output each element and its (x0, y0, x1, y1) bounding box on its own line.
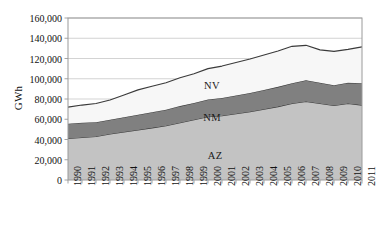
series-label-nv: NV (204, 79, 220, 90)
area-chart: GWh 020,00040,00060,00080,000100,000120,… (0, 0, 380, 229)
x-tick-label: 1997 (170, 166, 181, 186)
x-tick-label: 2007 (310, 166, 321, 186)
x-tick-label: 1996 (156, 166, 167, 186)
x-tick-label: 2002 (240, 166, 251, 186)
x-tick-label: 1995 (142, 166, 153, 186)
x-tick-label: 2010 (352, 166, 363, 186)
x-tick-label: 2003 (254, 166, 265, 186)
x-tick-label: 2006 (296, 166, 307, 186)
x-tick-label: 1994 (128, 166, 139, 186)
x-tick-label: 1992 (100, 166, 111, 186)
x-tick-label: 2001 (226, 166, 237, 186)
series-label-nm: NM (203, 112, 221, 123)
x-tick-label: 2009 (338, 166, 349, 186)
x-tick-label: 2000 (212, 166, 223, 186)
x-tick-label: 2008 (324, 166, 335, 186)
x-axis-tick-labels: 1990199119921993199419951996199719981999… (0, 0, 380, 229)
series-label-az: AZ (208, 150, 223, 161)
x-tick-label: 1990 (72, 166, 83, 186)
x-tick-label: 2004 (268, 166, 279, 186)
x-tick-label: 1999 (198, 166, 209, 186)
x-tick-label: 1993 (114, 166, 125, 186)
x-tick-label: 2005 (282, 166, 293, 186)
x-tick-label: 1998 (184, 166, 195, 186)
x-tick-label: 2011 (366, 166, 377, 186)
x-tick-label: 1991 (86, 166, 97, 186)
